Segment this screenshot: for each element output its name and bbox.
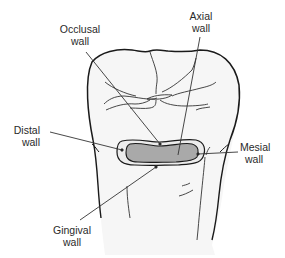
tooth-cavity-diagram: Occlusal wall Axial wall Distal wall Mes… (0, 0, 285, 258)
occlusal-leader-dot (159, 143, 161, 145)
label-axial-line2: wall (191, 22, 210, 34)
label-mesial-line1: Mesial (240, 141, 270, 153)
label-axial-line1: Axial (190, 10, 213, 22)
label-mesial-line2: wall (244, 153, 263, 165)
label-occlusal-line1: Occlusal (60, 23, 100, 35)
gingival-leader-dot (155, 166, 157, 168)
label-distal-line1: Distal (14, 124, 40, 136)
distal-leader-dot (121, 149, 123, 151)
label-gingival-line1: Gingival (53, 224, 91, 236)
mesial-leader-dot (197, 153, 199, 155)
label-gingival-line2: wall (62, 236, 81, 248)
axial-wall-floor (126, 143, 198, 162)
label-occlusal-line2: wall (70, 35, 89, 47)
label-distal-line2: wall (21, 136, 40, 148)
